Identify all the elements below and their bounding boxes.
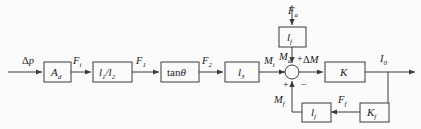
signal-label-F1: F1	[135, 55, 146, 69]
signal-label-F2: F2	[201, 55, 212, 69]
sign-plus-bottom: +	[283, 79, 289, 90]
signal-label-I0: I0	[379, 53, 388, 67]
control-block-diagram: + + − Ad l1/l2 tanθ l3 K lf lf Kf Δp Fi …	[0, 0, 421, 129]
signal-label-delta-p: Δp	[22, 55, 34, 66]
sign-minus-right: −	[301, 79, 307, 90]
signal-label-Mf: Mf	[273, 94, 286, 108]
signal-label-Fi: Fi	[72, 55, 81, 69]
diagram-canvas: + + − Ad l1/l2 tanθ l3 K lf lf Kf Δp Fi …	[0, 0, 421, 129]
block-tan-theta-label: tanθ	[167, 66, 186, 78]
block-lf-top	[279, 27, 306, 47]
block-K-label: K	[339, 66, 348, 78]
summing-junction	[285, 65, 299, 79]
signal-label-Mt: Mt	[263, 55, 276, 69]
signal-label-Fa: Fa	[287, 5, 298, 19]
signal-label-Ma: Ma	[278, 51, 292, 65]
signal-label-delta-M: ΔM	[303, 54, 320, 65]
signal-label-Ff: Ff	[337, 94, 347, 108]
block-lf-bottom	[302, 103, 331, 122]
